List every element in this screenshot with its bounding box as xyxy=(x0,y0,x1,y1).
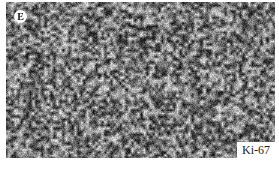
panel-label: E xyxy=(14,10,27,23)
micrograph-panel: E Ki-67 xyxy=(6,2,275,158)
micrograph-image xyxy=(6,2,275,158)
stain-label: Ki-67 xyxy=(237,142,275,158)
